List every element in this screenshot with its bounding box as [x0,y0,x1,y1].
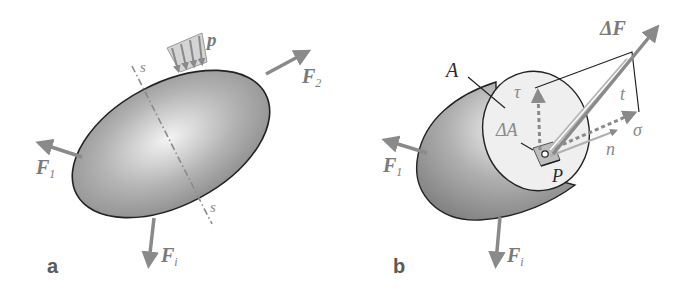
stress-diagram: s s p F2 F1 Fi a A τ [0,0,690,292]
panel-label-a: a [47,255,59,277]
normal-vector-label: n [606,139,615,159]
force-label-fi-b: Fi [506,244,524,269]
delta-force-label: ΔF [599,17,627,39]
normal-stress-label: σ [633,120,643,140]
panel-a: s s p F2 F1 Fi a [35,29,321,277]
force-arrow-f2 [266,53,305,74]
section-label-top: s [140,59,146,75]
panel-label-b: b [393,255,405,277]
area-label-a: A [444,59,459,81]
section-label-bottom: s [210,199,216,215]
force-arrow-fi-b [496,217,500,262]
force-label-f1: F1 [35,156,55,181]
stress-vector-label: t [620,84,626,104]
shear-stress-label: τ [514,82,521,102]
panel-b: A τ ΔA P σ n t ΔF F1 Fi [382,17,655,277]
force-label-f2: F2 [301,65,321,90]
distributed-load-icon [167,33,207,72]
point-label-p: P [551,166,563,186]
point-p-marker [542,151,548,157]
delta-area-label: ΔA [495,120,519,140]
force-label-fi: Fi [160,244,178,269]
load-label-p: p [205,29,217,50]
force-label-f1-b: F1 [382,154,402,179]
force-arrow-fi [149,218,154,262]
